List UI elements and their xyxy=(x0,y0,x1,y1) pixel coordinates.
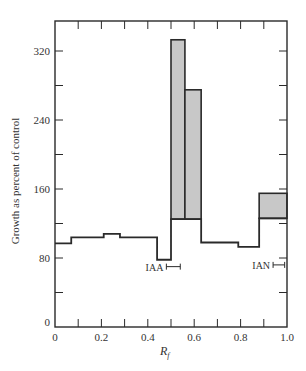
shaded-bar xyxy=(185,90,201,219)
y-tick-label: 0 xyxy=(45,316,51,328)
shaded-bars xyxy=(171,40,287,219)
y-tick-label: 320 xyxy=(34,45,51,57)
annotation-label: IAA xyxy=(146,262,165,273)
axis-tick-labels: 00.20.40.60.81.0080160240320 xyxy=(34,45,295,343)
step-line xyxy=(55,218,287,259)
annotation-label: IAN xyxy=(252,260,270,271)
step-outline xyxy=(55,218,287,259)
y-tick-label: 160 xyxy=(34,183,51,195)
x-axis-label: Rf xyxy=(160,344,170,360)
y-tick-label: 80 xyxy=(39,252,51,264)
histogram-chart: 00.20.40.60.81.0080160240320 IAAIAN xyxy=(0,0,306,371)
shaded-bar xyxy=(171,40,185,219)
x-tick-label: 0.8 xyxy=(234,331,248,343)
x-tick-label: 0 xyxy=(52,331,58,343)
x-tick-label: 0.6 xyxy=(187,331,201,343)
x-tick-label: 0.4 xyxy=(141,331,155,343)
annotations: IAAIAN xyxy=(146,260,285,273)
shaded-bar xyxy=(259,193,287,218)
x-axis-label-sub: f xyxy=(167,351,169,360)
x-tick-label: 1.0 xyxy=(280,331,294,343)
y-axis-label: Growth as percent of control xyxy=(9,96,21,266)
x-tick-label: 0.2 xyxy=(95,331,109,343)
y-tick-label: 240 xyxy=(34,114,51,126)
